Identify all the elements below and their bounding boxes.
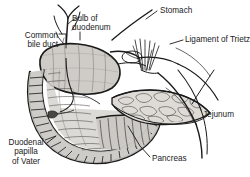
label-bulb-of-duodenum: Bulb of duodenum [72,14,134,33]
label-pancreas: Pancreas [152,154,204,163]
label-duodenal-papilla-of-vater: Duodenal papilla of Vater [2,138,50,166]
anatomy-figure: Common bile duct Bulb of duodenum Stomac… [0,0,250,177]
label-jejunum: Jejunum [203,110,249,119]
label-stomach: Stomach [160,6,220,15]
label-ligament-of-trietz: Ligament of Trietz [185,35,250,44]
label-common-bile-duct: Common bile duct [6,31,58,50]
